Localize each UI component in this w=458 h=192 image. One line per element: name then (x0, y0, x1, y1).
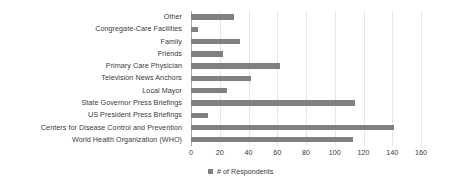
bar-row[interactable] (191, 97, 421, 109)
y-axis-label: US President Press Briefings (88, 111, 186, 119)
bar-row[interactable] (191, 121, 421, 133)
bar[interactable] (191, 137, 353, 142)
plot-area (191, 11, 421, 146)
bar[interactable] (191, 88, 227, 93)
bar-row[interactable] (191, 72, 421, 84)
bar[interactable] (191, 100, 355, 105)
y-axis-label: Other (164, 13, 186, 21)
chart-legend: # of Respondents (191, 167, 438, 176)
y-axis-category-labels: Other Congregate-Care Facilities Family … (0, 11, 186, 146)
y-axis-label: Friends (158, 50, 186, 58)
legend-label: # of Respondents (217, 167, 273, 176)
bar-row[interactable] (191, 60, 421, 72)
y-axis-label: World Health Organization (WHO) (72, 136, 186, 144)
y-axis-label: Congregate-Care Facilities (95, 25, 186, 33)
bar-row[interactable] (191, 85, 421, 97)
gridline (421, 11, 422, 146)
y-axis-label: Centers for Disease Control and Preventi… (41, 124, 186, 132)
bar-row[interactable] (191, 11, 421, 23)
bar-row[interactable] (191, 36, 421, 48)
y-axis-label: Television News Anchors (101, 74, 186, 82)
bar[interactable] (191, 27, 198, 32)
x-axis-tick: 60 (273, 148, 281, 157)
legend-swatch-icon (208, 169, 213, 174)
bar[interactable] (191, 63, 280, 68)
y-axis-label: State Governor Press Briefings (81, 99, 186, 107)
x-axis-tick: 0 (189, 148, 193, 157)
x-axis-tick: 160 (415, 148, 427, 157)
bar[interactable] (191, 14, 234, 19)
bar[interactable] (191, 39, 240, 44)
bar-row[interactable] (191, 23, 421, 35)
bar-row[interactable] (191, 134, 421, 146)
chart-plot-wrapper: Other Congregate-Care Facilities Family … (0, 0, 458, 192)
x-axis-tick: 120 (358, 148, 370, 157)
x-axis-tick: 80 (302, 148, 310, 157)
bar-row[interactable] (191, 48, 421, 60)
x-axis-tick: 100 (329, 148, 341, 157)
y-axis-label: Primary Care Physician (106, 62, 186, 70)
bar[interactable] (191, 51, 223, 56)
y-axis-label: Local Mayor (142, 87, 186, 95)
bar-chart: Other Congregate-Care Facilities Family … (0, 0, 458, 192)
x-axis-tick: 40 (245, 148, 253, 157)
bar-row[interactable] (191, 109, 421, 121)
bar[interactable] (191, 125, 394, 130)
x-axis-tick: 140 (386, 148, 398, 157)
bar[interactable] (191, 113, 208, 118)
x-axis-tick: 20 (216, 148, 224, 157)
bar[interactable] (191, 76, 251, 81)
x-axis-tick-labels: 020406080100120140160 (191, 148, 421, 160)
bar-series (191, 11, 421, 146)
y-axis-label: Family (161, 38, 186, 46)
